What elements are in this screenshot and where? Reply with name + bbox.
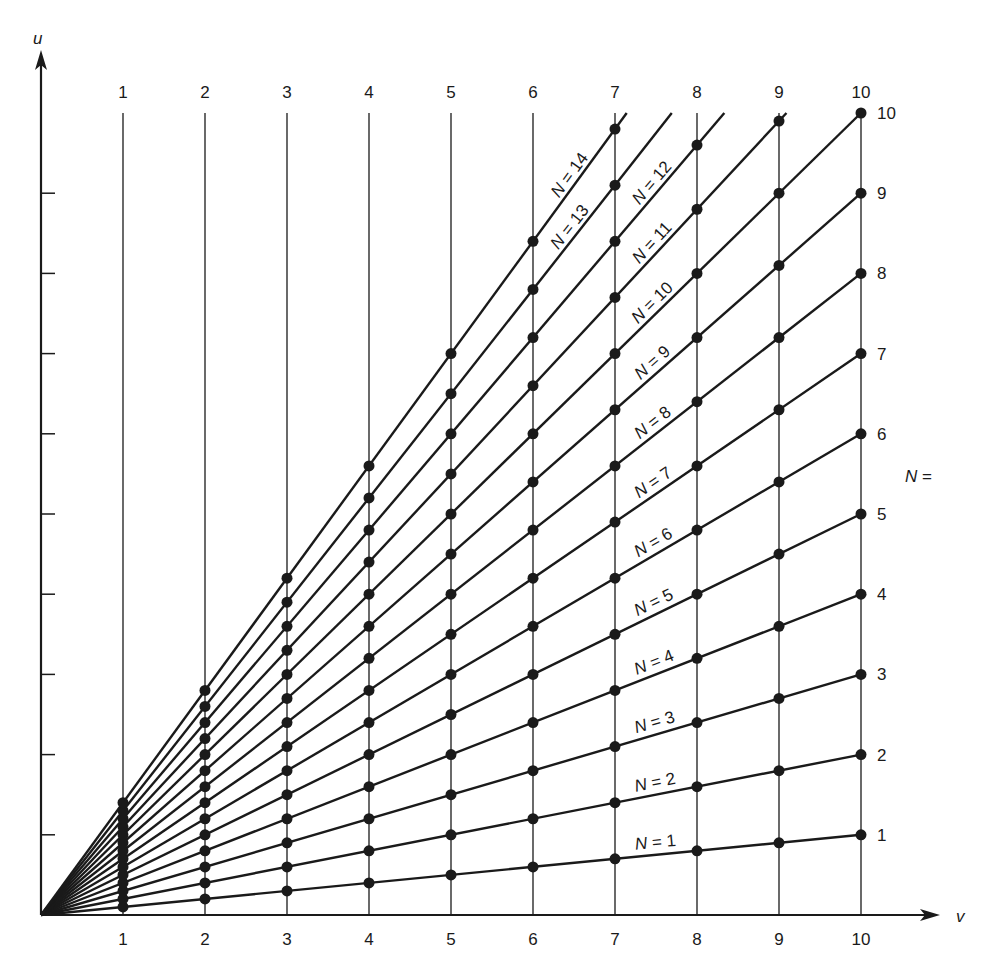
- right-n-label: 7: [877, 345, 886, 364]
- data-point: [364, 877, 375, 888]
- data-point: [774, 693, 785, 704]
- data-point: [282, 885, 293, 896]
- data-point: [692, 140, 703, 151]
- data-point: [200, 877, 211, 888]
- series-label-n10: N = 10: [627, 278, 676, 327]
- data-point: [856, 749, 867, 760]
- data-point: [856, 348, 867, 359]
- data-point: [692, 653, 703, 664]
- data-point: [856, 428, 867, 439]
- data-point: [610, 124, 621, 135]
- y-axis-label: u: [33, 29, 43, 48]
- data-point: [528, 284, 539, 295]
- data-point: [856, 829, 867, 840]
- vertical-grid-lines: [123, 113, 861, 915]
- data-point: [610, 292, 621, 303]
- data-point: [610, 573, 621, 584]
- data-point: [446, 589, 457, 600]
- right-n-label: 9: [877, 184, 886, 203]
- x-tick-label: 7: [610, 930, 619, 949]
- data-point: [200, 685, 211, 696]
- top-tick-label: 4: [364, 83, 373, 102]
- x-axis-label: v: [956, 907, 966, 926]
- data-point: [282, 765, 293, 776]
- data-point: [364, 685, 375, 696]
- data-point: [692, 396, 703, 407]
- right-n-label: 2: [877, 746, 886, 765]
- data-point: [610, 180, 621, 191]
- data-point: [528, 813, 539, 824]
- x-tick-label: 1: [118, 930, 127, 949]
- data-point: [856, 589, 867, 600]
- data-point: [692, 268, 703, 279]
- top-tick-label: 10: [852, 83, 871, 102]
- data-point: [446, 709, 457, 720]
- data-point: [282, 669, 293, 680]
- data-point: [282, 741, 293, 752]
- top-tick-label: 2: [200, 83, 209, 102]
- right-n-label: 5: [877, 505, 886, 524]
- data-point: [364, 460, 375, 471]
- data-point: [446, 388, 457, 399]
- data-point: [528, 332, 539, 343]
- data-point: [282, 717, 293, 728]
- data-point: [282, 645, 293, 656]
- data-point: [364, 492, 375, 503]
- data-point: [528, 765, 539, 776]
- right-n-label: 1: [877, 826, 886, 845]
- nomogram-chart: 1122334455667788991010vuN = 1N = 2N = 3N…: [0, 0, 992, 976]
- data-point: [528, 236, 539, 247]
- data-point: [446, 669, 457, 680]
- series-label-n1: N = 1: [634, 831, 677, 854]
- data-point: [282, 597, 293, 608]
- axes: [35, 50, 940, 921]
- data-point: [692, 717, 703, 728]
- data-point: [200, 813, 211, 824]
- series-label-n4: N = 4: [631, 646, 676, 679]
- data-series: [41, 108, 867, 916]
- data-point: [774, 332, 785, 343]
- data-point: [774, 260, 785, 271]
- data-point: [774, 837, 785, 848]
- x-tick-label: 6: [528, 930, 537, 949]
- data-point: [528, 573, 539, 584]
- top-tick-label: 5: [446, 83, 455, 102]
- data-point: [446, 789, 457, 800]
- data-point: [282, 573, 293, 584]
- top-tick-label: 8: [692, 83, 701, 102]
- data-point: [364, 557, 375, 568]
- data-point: [528, 380, 539, 391]
- data-point: [610, 685, 621, 696]
- top-tick-label: 3: [282, 83, 291, 102]
- data-point: [364, 749, 375, 760]
- data-point: [774, 549, 785, 560]
- data-point: [692, 589, 703, 600]
- data-point: [282, 693, 293, 704]
- data-point: [282, 621, 293, 632]
- right-n-label: 8: [877, 264, 886, 283]
- data-point: [446, 869, 457, 880]
- data-point: [200, 829, 211, 840]
- x-tick-label: 8: [692, 930, 701, 949]
- data-point: [364, 621, 375, 632]
- x-tick-label: 4: [364, 930, 373, 949]
- data-point: [364, 653, 375, 664]
- data-point: [774, 116, 785, 127]
- data-point: [446, 549, 457, 560]
- data-point: [200, 749, 211, 760]
- right-n-label: 4: [877, 585, 886, 604]
- right-axis-title: N =: [905, 467, 932, 486]
- x-tick-label: 3: [282, 930, 291, 949]
- series-line-n13: [41, 113, 672, 915]
- data-point: [774, 404, 785, 415]
- right-n-label: 3: [877, 665, 886, 684]
- top-tick-label: 9: [774, 83, 783, 102]
- series-label-n11: N = 11: [628, 218, 675, 267]
- data-point: [282, 813, 293, 824]
- data-point: [446, 749, 457, 760]
- data-point: [282, 789, 293, 800]
- data-point: [200, 797, 211, 808]
- data-point: [200, 733, 211, 744]
- data-point: [528, 669, 539, 680]
- series-line-n11: [41, 113, 786, 915]
